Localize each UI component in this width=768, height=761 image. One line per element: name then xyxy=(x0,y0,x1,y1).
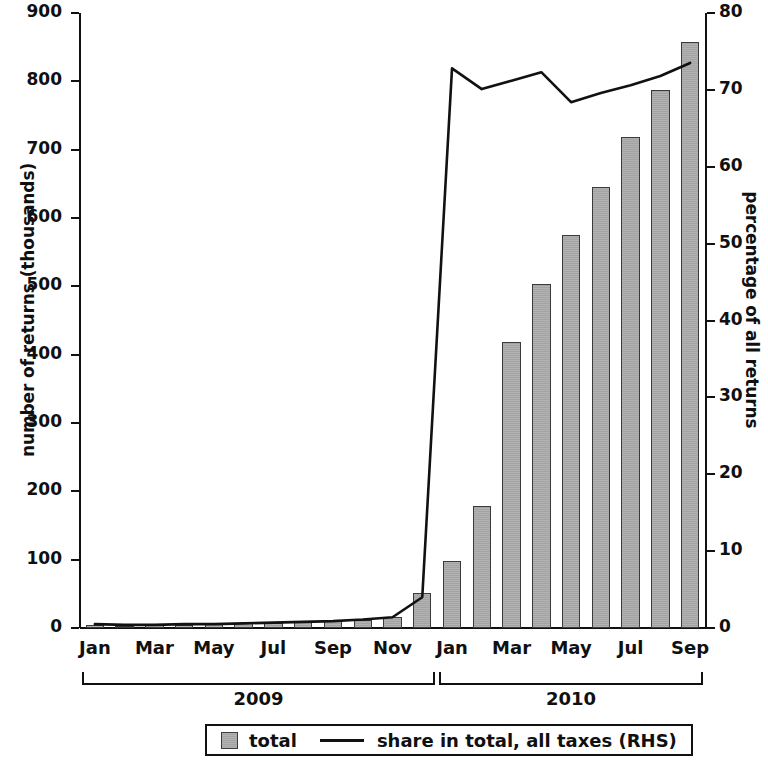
y-axis-right-tick xyxy=(707,320,715,322)
y-axis-right-tick xyxy=(707,243,715,245)
chart-legend: total share in total, all taxes (RHS) xyxy=(205,724,693,756)
y-axis-left-tick xyxy=(71,627,79,629)
x-axis-tick-label: Jan xyxy=(436,637,468,658)
year-label: 2009 xyxy=(234,688,284,709)
y-axis-right-tick-label: 60 xyxy=(719,155,743,175)
x-axis-tick-label: Jul xyxy=(261,637,287,658)
y-axis-left-tick-label: 300 xyxy=(27,411,63,431)
chart-figure: number of returns (thousands) percentage… xyxy=(0,0,768,761)
y-axis-left-title: number of returns (thousands) xyxy=(18,110,38,510)
y-axis-left-tick xyxy=(71,12,79,14)
y-axis-right-tick xyxy=(707,473,715,475)
y-axis-left-tick-label: 800 xyxy=(27,69,63,89)
y-axis-right-tick-label: 30 xyxy=(719,385,743,405)
y-axis-right-tick xyxy=(707,627,715,629)
x-axis-tick-label: May xyxy=(550,637,591,658)
legend-label-total: total xyxy=(249,730,297,751)
x-axis-tick-label: Sep xyxy=(671,637,709,658)
y-axis-right-tick-label: 20 xyxy=(719,462,743,482)
y-axis-left-tick xyxy=(71,422,79,424)
x-axis-tick-label: May xyxy=(193,637,234,658)
y-axis-left-tick-label: 500 xyxy=(27,274,63,294)
y-axis-left-tick xyxy=(71,217,79,219)
y-axis-left-tick xyxy=(71,285,79,287)
y-axis-right-tick-label: 10 xyxy=(719,539,743,559)
y-axis-right-tick-label: 0 xyxy=(719,616,731,636)
x-axis-tick-label: Mar xyxy=(135,637,174,658)
legend-line-share-icon xyxy=(320,739,364,742)
y-axis-left-tick-label: 400 xyxy=(27,343,63,363)
y-axis-right-tick xyxy=(707,89,715,91)
legend-label-share: share in total, all taxes (RHS) xyxy=(377,730,677,751)
y-axis-right-title: percentage of all returns xyxy=(742,110,762,510)
y-axis-right-tick xyxy=(707,166,715,168)
y-axis-right-tick-label: 50 xyxy=(719,232,743,252)
y-axis-left-tick-label: 700 xyxy=(27,138,63,158)
legend-swatch-total-icon xyxy=(221,732,238,749)
y-axis-right-tick xyxy=(707,550,715,552)
y-axis-left-tick-label: 100 xyxy=(27,548,63,568)
y-axis-right-tick xyxy=(707,396,715,398)
y-axis-left-tick-label: 600 xyxy=(27,206,63,226)
y-axis-left-tick xyxy=(71,149,79,151)
y-axis-left-tick-label: 900 xyxy=(27,1,63,21)
x-axis-tick-label: Jul xyxy=(618,637,644,658)
year-bracket xyxy=(439,672,703,685)
y-axis-left-tick xyxy=(71,490,79,492)
y-axis-left-tick xyxy=(71,354,79,356)
x-axis-tick-label: Mar xyxy=(492,637,531,658)
y-axis-left-tick xyxy=(71,559,79,561)
line-series-share xyxy=(80,13,705,628)
y-axis-right-tick-label: 70 xyxy=(719,78,743,98)
y-axis-left-tick-label: 200 xyxy=(27,479,63,499)
year-bracket xyxy=(82,672,435,685)
y-axis-right-tick xyxy=(707,12,715,14)
x-axis-tick-label: Nov xyxy=(373,637,412,658)
x-axis-tick-label: Sep xyxy=(314,637,352,658)
y-axis-right-tick-label: 40 xyxy=(719,309,743,329)
year-label: 2010 xyxy=(546,688,596,709)
y-axis-left-tick-label: 0 xyxy=(50,616,62,636)
y-axis-right-tick-label: 80 xyxy=(719,1,743,21)
x-axis-tick-label: Jan xyxy=(79,637,111,658)
y-axis-left-tick xyxy=(71,80,79,82)
